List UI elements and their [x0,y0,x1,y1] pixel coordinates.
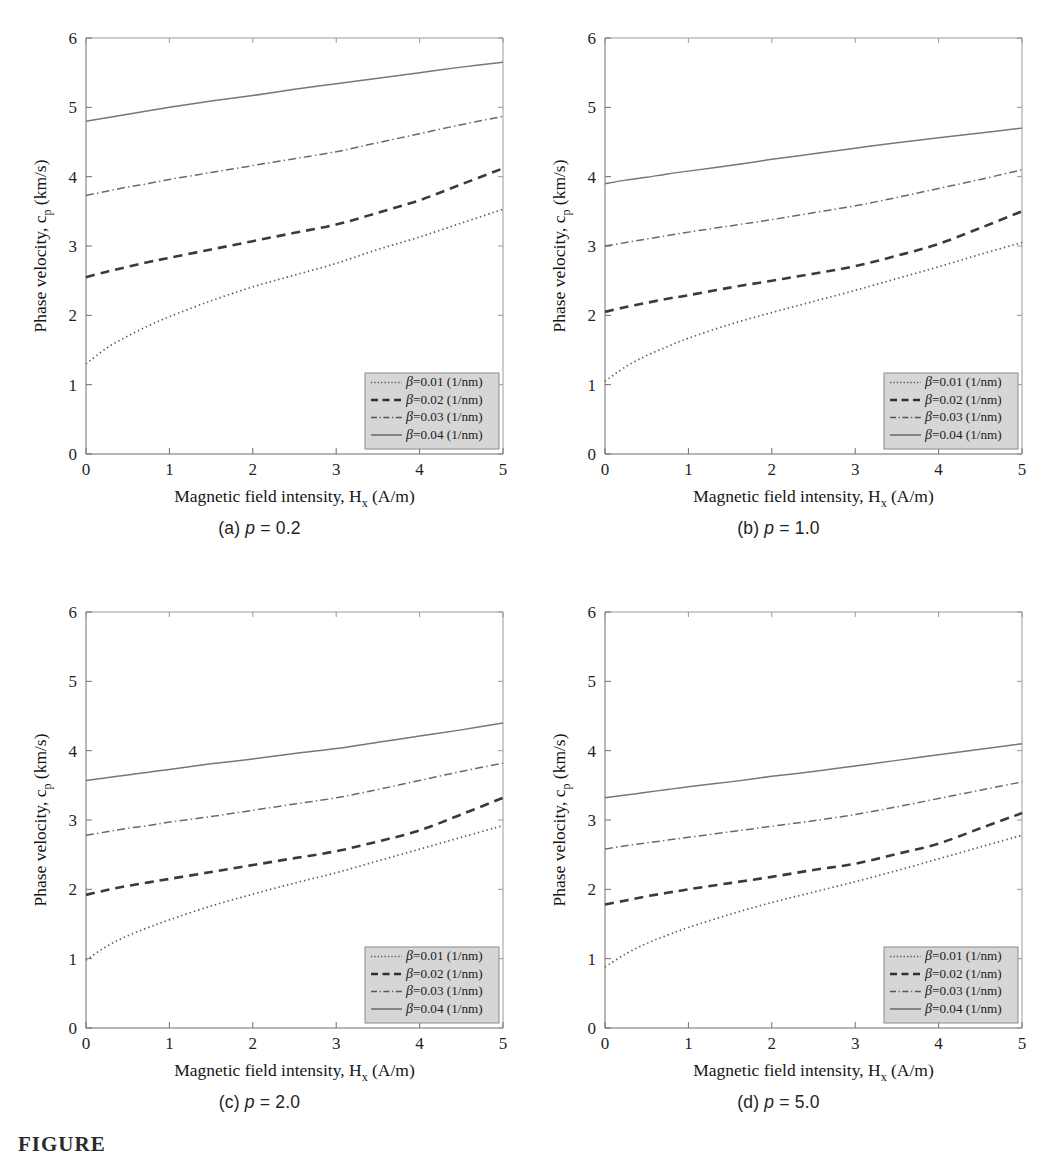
x-tick-label: 4 [415,460,424,479]
y-tick-label: 4 [69,168,78,187]
legend-label-1: β=0.02 (1/nm) [924,392,1002,407]
caption-variable: p [764,1092,774,1112]
curve-b-series-0 [605,243,1022,382]
legend-label-0: β=0.01 (1/nm) [924,374,1002,389]
legend-d[interactable]: β=0.01 (1/nm)β=0.02 (1/nm)β=0.03 (1/nm)β… [884,947,1018,1023]
svg-text:Phase velocity, cp (km/s): Phase velocity, cp (km/s) [549,733,573,906]
x-tick-label: 2 [768,460,777,479]
curve-a-series-1 [86,168,503,277]
caption-variable: p [245,518,255,538]
y-tick-label: 5 [69,672,78,691]
x-tick-label: 3 [332,1034,341,1053]
panel-caption-d: (d) p = 5.0 [519,1092,1038,1113]
x-tick-label: 2 [249,460,258,479]
legend-a[interactable]: β=0.01 (1/nm)β=0.02 (1/nm)β=0.03 (1/nm)β… [365,373,499,449]
curve-c-series-2 [86,763,503,835]
curve-a-series-3 [86,62,503,121]
plot-area-a: 0123450123456Magnetic field intensity, H… [0,0,519,520]
y-tick-label: 3 [588,811,597,830]
caption-index: (d) [737,1092,764,1112]
caption-index: (a) [218,518,245,538]
y-tick-label: 2 [69,880,78,899]
curve-b-series-3 [605,128,1022,183]
y-tick-label: 2 [588,306,597,325]
svg-text:Magnetic field intensity, Hx (: Magnetic field intensity, Hx (A/m) [174,1060,415,1084]
legend-label-0: β=0.01 (1/nm) [924,948,1002,963]
x-tick-label: 0 [82,460,91,479]
figure-footer-label: FIGURE [18,1132,106,1155]
svg-text:Phase velocity, cp (km/s): Phase velocity, cp (km/s) [30,159,54,332]
curve-a-series-2 [86,116,503,195]
x-tick-label: 4 [934,1034,943,1053]
curve-d-series-3 [605,744,1022,798]
y-tick-label: 0 [588,1019,597,1038]
panel-caption-a: (a) p = 0.2 [0,518,519,539]
legend-label-2: β=0.03 (1/nm) [924,983,1002,998]
x-tick-label: 0 [82,1034,91,1053]
legend-label-3: β=0.04 (1/nm) [924,427,1002,442]
caption-value: = 1.0 [774,518,819,538]
svg-text:Phase velocity, cp (km/s): Phase velocity, cp (km/s) [30,733,54,906]
x-tick-label: 1 [165,460,174,479]
legend-label-0: β=0.01 (1/nm) [405,948,483,963]
y-axis-title: Phase velocity, cp (km/s) [30,159,54,332]
x-tick-label: 1 [165,1034,174,1053]
x-axis-title: Magnetic field intensity, Hx (A/m) [174,486,415,510]
x-axis-title: Magnetic field intensity, Hx (A/m) [693,1060,934,1084]
legend-label-1: β=0.02 (1/nm) [405,966,483,981]
x-tick-label: 4 [934,460,943,479]
plot-area-c: 0123450123456Magnetic field intensity, H… [0,574,519,1094]
y-tick-label: 6 [69,603,78,622]
y-tick-label: 3 [69,237,78,256]
caption-variable: p [764,518,774,538]
legend-label-0: β=0.01 (1/nm) [405,374,483,389]
x-tick-label: 4 [415,1034,424,1053]
caption-value: = 5.0 [774,1092,819,1112]
y-axis-title: Phase velocity, cp (km/s) [549,733,573,906]
x-axis-title: Magnetic field intensity, Hx (A/m) [174,1060,415,1084]
x-tick-label: 3 [332,460,341,479]
y-tick-label: 1 [69,950,78,969]
plot-area-b: 0123450123456Magnetic field intensity, H… [519,0,1038,520]
y-tick-label: 5 [588,672,597,691]
y-tick-label: 6 [588,603,597,622]
x-tick-label: 0 [601,1034,610,1053]
y-tick-label: 2 [588,880,597,899]
x-axis-title: Magnetic field intensity, Hx (A/m) [693,486,934,510]
curve-d-series-1 [605,813,1022,905]
caption-value: = 0.2 [255,518,300,538]
legend-label-3: β=0.04 (1/nm) [405,427,483,442]
y-tick-label: 1 [588,376,597,395]
x-tick-label: 3 [851,1034,860,1053]
legend-label-1: β=0.02 (1/nm) [924,966,1002,981]
svg-text:Magnetic field intensity, Hx (: Magnetic field intensity, Hx (A/m) [693,486,934,510]
y-tick-label: 4 [69,742,78,761]
x-tick-label: 1 [684,1034,693,1053]
y-tick-label: 2 [69,306,78,325]
y-tick-label: 1 [588,950,597,969]
curve-b-series-2 [605,170,1022,246]
y-tick-label: 1 [69,376,78,395]
chart-panel-a: 0123450123456Magnetic field intensity, H… [0,0,519,574]
x-tick-label: 3 [851,460,860,479]
chart-panel-d: 0123450123456Magnetic field intensity, H… [519,574,1038,1148]
legend-b[interactable]: β=0.01 (1/nm)β=0.02 (1/nm)β=0.03 (1/nm)β… [884,373,1018,449]
legend-c[interactable]: β=0.01 (1/nm)β=0.02 (1/nm)β=0.03 (1/nm)β… [365,947,499,1023]
plot-area-d: 0123450123456Magnetic field intensity, H… [519,574,1038,1094]
caption-index: (b) [737,518,764,538]
chart-panel-c: 0123450123456Magnetic field intensity, H… [0,574,519,1148]
caption-variable: p [245,1092,255,1112]
y-tick-label: 5 [69,98,78,117]
y-tick-label: 0 [69,1019,78,1038]
svg-text:Magnetic field intensity, Hx (: Magnetic field intensity, Hx (A/m) [174,486,415,510]
y-tick-label: 3 [588,237,597,256]
curve-d-series-2 [605,782,1022,849]
y-tick-label: 0 [588,445,597,464]
x-tick-label: 2 [249,1034,258,1053]
chart-panel-b: 0123450123456Magnetic field intensity, H… [519,0,1038,574]
x-tick-label: 5 [499,460,508,479]
legend-label-3: β=0.04 (1/nm) [405,1001,483,1016]
caption-value: = 2.0 [255,1092,300,1112]
y-tick-label: 6 [588,29,597,48]
y-axis-title: Phase velocity, cp (km/s) [549,159,573,332]
